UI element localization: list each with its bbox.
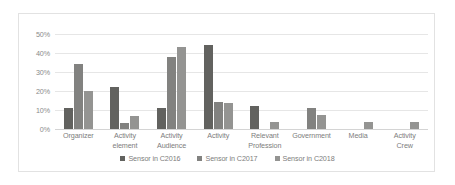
x-axis-category-label: Activity: [195, 131, 242, 150]
y-axis-tick-label: 30%: [36, 68, 50, 77]
bar-group: [335, 34, 382, 129]
bar: [410, 122, 419, 129]
chart-legend: Sensor in C2016Sensor in C2017Sensor in …: [19, 154, 436, 163]
bar-group: [288, 34, 335, 129]
legend-swatch-icon: [275, 156, 280, 161]
bar-group: [242, 34, 289, 129]
bar: [364, 122, 373, 129]
y-axis-tick-label: 20%: [36, 87, 50, 96]
bar-groups: [55, 34, 428, 129]
x-axis-category-label: Activity element: [102, 131, 149, 150]
bar-group: [148, 34, 195, 129]
x-axis-category-label: Government: [288, 131, 335, 150]
gridline: 0%: [55, 129, 428, 130]
bar-group: [195, 34, 242, 129]
bar: [110, 87, 119, 129]
legend-item[interactable]: Sensor in C2016: [120, 154, 180, 163]
bar: [157, 108, 166, 129]
y-axis-tick-label: 50%: [36, 30, 50, 39]
bar: [84, 91, 93, 129]
legend-swatch-icon: [120, 156, 125, 161]
bar: [177, 47, 186, 129]
bar-group: [381, 34, 428, 129]
chart-container: 0%10%20%30%40%50% OrganizerActivity elem…: [18, 13, 435, 172]
legend-label: Sensor in C2018: [283, 154, 335, 163]
legend-swatch-icon: [197, 156, 202, 161]
bar-group: [55, 34, 102, 129]
legend-label: Sensor in C2017: [205, 154, 257, 163]
bar: [250, 106, 259, 129]
x-axis-category-label: Relevant Profession: [242, 131, 289, 150]
bar: [307, 108, 316, 129]
x-axis-category-label: Activity Audience: [148, 131, 195, 150]
x-axis-category-label: Organizer: [55, 131, 102, 150]
x-axis-category-label: Activity Crew: [381, 131, 428, 150]
y-axis-tick-label: 10%: [36, 106, 50, 115]
x-axis-category-label: Media: [335, 131, 382, 150]
bar: [317, 115, 326, 129]
bar: [204, 45, 213, 129]
bar: [214, 102, 223, 129]
bar: [74, 64, 83, 129]
bar: [224, 103, 233, 129]
legend-label: Sensor in C2016: [128, 154, 180, 163]
bar: [130, 116, 139, 129]
bar: [120, 123, 129, 129]
y-axis-tick-label: 0%: [40, 125, 50, 134]
bar: [64, 108, 73, 129]
bar: [167, 57, 176, 129]
bar: [270, 122, 279, 129]
legend-item[interactable]: Sensor in C2017: [197, 154, 257, 163]
plot-area: 0%10%20%30%40%50%: [55, 34, 428, 129]
legend-item[interactable]: Sensor in C2018: [275, 154, 335, 163]
bar-group: [102, 34, 149, 129]
y-axis-tick-label: 40%: [36, 49, 50, 58]
x-axis-category-labels: OrganizerActivity elementActivity Audien…: [55, 131, 428, 150]
